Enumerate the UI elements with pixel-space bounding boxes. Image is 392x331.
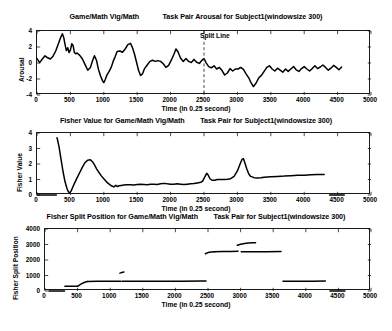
x-tick-label: 4500 xyxy=(330,292,344,299)
y-tick-label: -2 xyxy=(6,75,32,82)
y-tick-label: 2000 xyxy=(14,256,40,263)
series-segment xyxy=(237,243,255,246)
x-tick-label: 4000 xyxy=(298,292,312,299)
x-tick-label: 4500 xyxy=(329,196,343,203)
y-tick-label: 1000 xyxy=(14,271,40,278)
split-line-label: Split Line xyxy=(200,32,230,39)
series-segment xyxy=(78,282,87,286)
x-tick-label: 2000 xyxy=(167,292,181,299)
series-segment xyxy=(215,251,238,252)
panel-fisher-split-position: Fisher Split Position for Game/Math Vig/… xyxy=(0,208,392,331)
panel-arousal-title: Game/Math Vig/Math Task Pair Arousal for… xyxy=(0,12,392,21)
x-tick-label: 500 xyxy=(64,196,75,203)
x-tick-label: 3500 xyxy=(263,96,277,103)
panel-fisher-value-plot xyxy=(36,132,370,194)
x-tick-label: 2500 xyxy=(196,96,210,103)
x-tick-label: 2500 xyxy=(200,292,214,299)
arousal-series-line xyxy=(37,34,342,87)
x-tick-label: 2000 xyxy=(162,96,176,103)
x-tick-label: 1500 xyxy=(129,96,143,103)
y-tick-label: 0 xyxy=(6,191,32,198)
x-tick-label: 3000 xyxy=(229,196,243,203)
panel-fisher-split-position-xlabel: Time (in 0.25 second) xyxy=(0,301,392,308)
x-tick-label: 1500 xyxy=(135,292,149,299)
y-tick-label: 0 xyxy=(6,59,32,66)
x-tick-label: 3000 xyxy=(232,292,246,299)
panel-arousal: Game/Math Vig/Math Task Pair Arousal for… xyxy=(0,0,392,116)
panel-fisher-split-position-svg xyxy=(45,229,371,291)
x-tick-label: 4000 xyxy=(296,96,310,103)
x-tick-label: 0 xyxy=(42,292,46,299)
x-tick-label: 500 xyxy=(64,96,75,103)
y-tick-label: 3000 xyxy=(14,240,40,247)
panel-fisher-value-svg xyxy=(37,133,371,195)
x-tick-label: 1000 xyxy=(102,292,116,299)
series-segment xyxy=(57,138,324,193)
panel-fisher-value: Fisher Value for Game/Math Vig/Math Task… xyxy=(0,108,392,218)
panel-arousal-plot xyxy=(36,30,370,94)
x-tick-label: 2000 xyxy=(162,196,176,203)
panel-arousal-svg xyxy=(37,31,371,95)
x-tick-label: 500 xyxy=(71,292,82,299)
x-tick-label: 3500 xyxy=(265,292,279,299)
x-tick-label: 3500 xyxy=(263,196,277,203)
y-tick-label: -4 xyxy=(6,91,32,98)
y-tick-label: 1 xyxy=(6,175,32,182)
x-tick-label: 5000 xyxy=(363,96,377,103)
x-tick-label: 0 xyxy=(34,196,38,203)
y-tick-label: 4000 xyxy=(14,225,40,232)
x-tick-label: 5000 xyxy=(363,292,377,299)
panel-fisher-split-position-plot xyxy=(44,228,370,290)
x-tick-label: 1500 xyxy=(129,196,143,203)
y-tick-label: 2 xyxy=(6,43,32,50)
figure-root: Game/Math Vig/Math Task Pair Arousal for… xyxy=(0,0,392,331)
x-tick-label: 0 xyxy=(34,96,38,103)
x-tick-label: 1000 xyxy=(96,96,110,103)
y-tick-label: 2 xyxy=(6,160,32,167)
panel-fisher-value-title: Fisher Value for Game/Math Vig/Math Task… xyxy=(0,116,392,125)
panel-fisher-split-position-title: Fisher Split Position for Game/Math Vig/… xyxy=(0,212,392,221)
x-tick-label: 2500 xyxy=(196,196,210,203)
y-tick-label: 4 xyxy=(6,27,32,34)
x-tick-label: 1000 xyxy=(96,196,110,203)
x-tick-label: 3000 xyxy=(229,96,243,103)
y-tick-label: 4 xyxy=(6,129,32,136)
y-tick-label: 0 xyxy=(14,287,40,294)
x-tick-label: 4500 xyxy=(329,96,343,103)
series-segment xyxy=(120,272,124,273)
series-segment xyxy=(205,252,214,254)
x-tick-label: 4000 xyxy=(296,196,310,203)
y-tick-label: 3 xyxy=(6,144,32,151)
x-tick-label: 5000 xyxy=(363,196,377,203)
